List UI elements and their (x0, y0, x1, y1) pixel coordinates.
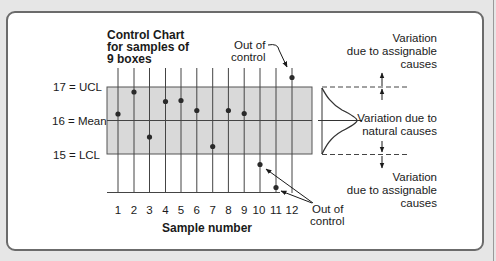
point-sample-11 (273, 185, 278, 190)
point-sample-6 (194, 108, 199, 113)
svg-text:1: 1 (115, 204, 121, 216)
normal-distribution-curve (318, 88, 362, 154)
x-axis-title: Sample number (162, 221, 252, 235)
arrow-to-sample-10 (266, 169, 313, 203)
out-of-control-top-line1: Out of (234, 39, 266, 51)
svg-text:5: 5 (178, 204, 184, 216)
assignable-top-line1: Variation (392, 32, 437, 44)
point-sample-2 (131, 89, 136, 94)
point-sample-8 (226, 108, 231, 113)
svg-text:9: 9 (241, 204, 247, 216)
point-sample-9 (242, 111, 247, 116)
point-sample-3 (147, 134, 152, 139)
svg-text:7: 7 (209, 204, 215, 216)
assignable-bottom-line1: Variation (392, 171, 437, 183)
out-of-control-bottom-line2: control (310, 215, 345, 227)
chart-title-line3: 9 boxes (107, 52, 152, 66)
assignable-bottom-line2: due to assignable (347, 184, 437, 196)
point-sample-7 (210, 144, 215, 149)
point-sample-1 (115, 111, 120, 116)
assignable-top-line2: due to assignable (347, 45, 437, 57)
lcl-label: 15 = LCL (53, 149, 101, 161)
point-sample-10 (257, 162, 262, 167)
x-tick-labels: 1 2 3 4 5 6 7 8 9 10 11 12 (115, 204, 299, 216)
svg-text:10: 10 (253, 204, 266, 216)
out-of-control-top-line2: control (231, 51, 266, 63)
natural-line1: Variation due to (357, 112, 437, 124)
assignable-bottom-line3: causes (401, 197, 438, 209)
control-chart: Control Chart for samples of 9 boxes 17 … (0, 0, 496, 261)
out-of-control-bottom-line1: Out of (312, 203, 344, 215)
arrow-to-sample-11 (281, 191, 312, 203)
arrow-to-sample-12 (268, 45, 287, 67)
svg-text:11: 11 (270, 204, 282, 216)
svg-text:4: 4 (162, 204, 169, 216)
ucl-label: 17 = UCL (53, 81, 103, 93)
svg-text:3: 3 (146, 204, 152, 216)
svg-text:8: 8 (225, 204, 231, 216)
natural-line2: natural causes (362, 125, 437, 137)
svg-text:12: 12 (286, 204, 299, 216)
mean-label: 16 = Mean (52, 115, 107, 127)
point-sample-12 (289, 75, 294, 80)
assignable-top-line3: causes (401, 58, 438, 70)
point-sample-4 (163, 99, 168, 104)
svg-text:2: 2 (131, 204, 137, 216)
svg-text:6: 6 (194, 204, 200, 216)
point-sample-5 (178, 98, 183, 103)
